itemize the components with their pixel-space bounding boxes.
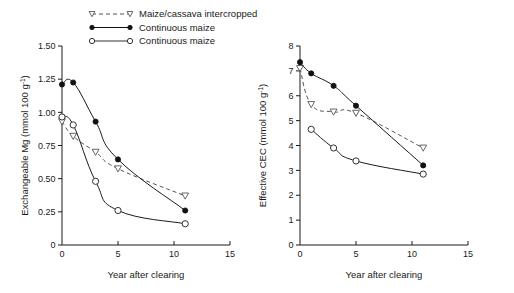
data-series xyxy=(59,79,187,213)
data-point-filled-circle xyxy=(421,163,426,168)
series-line xyxy=(62,122,185,196)
data-point-open-triangle xyxy=(182,193,189,199)
data-point-filled-circle xyxy=(183,208,188,213)
data-point-open-circle xyxy=(89,38,94,43)
data-point-open-circle xyxy=(420,171,426,177)
x-axis-tick-label: 15 xyxy=(225,249,235,259)
legend-item: Continuous maize xyxy=(90,22,215,33)
y-axis-tick-label: 1.25 xyxy=(38,74,56,84)
y-axis-tick-label: 0 xyxy=(50,240,55,250)
data-point-open-circle xyxy=(353,158,359,164)
series-line xyxy=(62,79,185,210)
data-point-open-circle xyxy=(93,178,99,184)
y-axis-tick-label: 5 xyxy=(288,116,293,126)
data-point-filled-circle xyxy=(90,25,94,29)
legend-item: Maize/cassava intercropped xyxy=(89,8,257,19)
data-point-filled-circle xyxy=(297,60,302,65)
series-line xyxy=(62,116,185,223)
y-axis-tick-label: 8 xyxy=(288,41,293,51)
y-axis-tick-label: 0.75 xyxy=(38,141,56,151)
y-axis-tick-label: 0 xyxy=(288,240,293,250)
y-axis-tick-label: 4 xyxy=(288,141,293,151)
data-point-filled-circle xyxy=(353,103,358,108)
y-axis-tick-label: 7 xyxy=(288,66,293,76)
data-point-filled-circle xyxy=(93,119,98,124)
x-axis-tick-label: 5 xyxy=(115,249,120,259)
data-point-filled-circle xyxy=(128,25,132,29)
data-point-filled-circle xyxy=(309,71,314,76)
x-axis-label: Year after clearing xyxy=(108,269,185,280)
data-series xyxy=(297,60,425,168)
x-axis-tick-label: 5 xyxy=(353,249,358,259)
data-point-open-circle xyxy=(115,207,121,213)
legend-item: Continuous maize xyxy=(89,35,215,46)
y-axis-tick-label: 1.50 xyxy=(38,41,56,51)
legend: Maize/cassava intercroppedContinuous mai… xyxy=(89,8,257,46)
data-point-open-circle xyxy=(182,221,188,227)
y-axis-tick-label: 6 xyxy=(288,91,293,101)
data-point-filled-circle xyxy=(115,157,120,162)
data-point-filled-circle xyxy=(59,82,64,87)
data-series xyxy=(297,65,427,151)
legend-label: Continuous maize xyxy=(139,22,215,33)
data-point-filled-circle xyxy=(71,80,76,85)
data-point-open-triangle xyxy=(353,110,360,116)
data-point-open-triangle xyxy=(420,145,427,151)
data-point-open-circle xyxy=(308,126,314,132)
y-axis-tick-label: 3 xyxy=(288,166,293,176)
data-series xyxy=(308,126,426,177)
x-axis-tick-label: 0 xyxy=(59,249,64,259)
figure-canvas: Maize/cassava intercroppedContinuous mai… xyxy=(0,0,514,293)
y-axis-label: Exchangeable Mg (mmol 100 g-1) xyxy=(19,75,30,215)
series-line xyxy=(311,129,423,174)
data-point-open-triangle xyxy=(115,166,122,172)
y-axis-tick-label: 1 xyxy=(288,215,293,225)
data-point-open-circle xyxy=(127,38,132,43)
data-series xyxy=(59,119,189,199)
data-point-open-circle xyxy=(70,122,76,128)
data-point-open-circle xyxy=(59,114,65,120)
x-axis-tick-label: 0 xyxy=(297,249,302,259)
y-axis-tick-label: 0.25 xyxy=(38,207,56,217)
data-point-open-triangle xyxy=(308,102,315,108)
y-axis-tick-label: 0.50 xyxy=(38,174,56,184)
legend-label: Maize/cassava intercropped xyxy=(139,8,257,19)
y-axis-label: Effective CEC (mmol 100 g-1) xyxy=(257,84,268,207)
y-axis-tick-label: 2 xyxy=(288,190,293,200)
data-series xyxy=(59,114,188,227)
series-line xyxy=(300,62,423,165)
y-axis-tick-label: 1.00 xyxy=(38,108,56,118)
x-axis-tick-label: 10 xyxy=(407,249,417,259)
chart-panel-left: 00.250.500.751.001.251.50051015Year afte… xyxy=(19,41,235,280)
x-axis-tick-label: 10 xyxy=(169,249,179,259)
x-axis-label: Year after clearing xyxy=(346,269,423,280)
legend-label: Continuous maize xyxy=(139,35,215,46)
chart-panel-right: 012345678051015Year after clearingEffect… xyxy=(257,41,473,280)
data-point-filled-circle xyxy=(331,83,336,88)
x-axis-tick-label: 15 xyxy=(463,249,473,259)
data-point-open-circle xyxy=(331,145,337,151)
